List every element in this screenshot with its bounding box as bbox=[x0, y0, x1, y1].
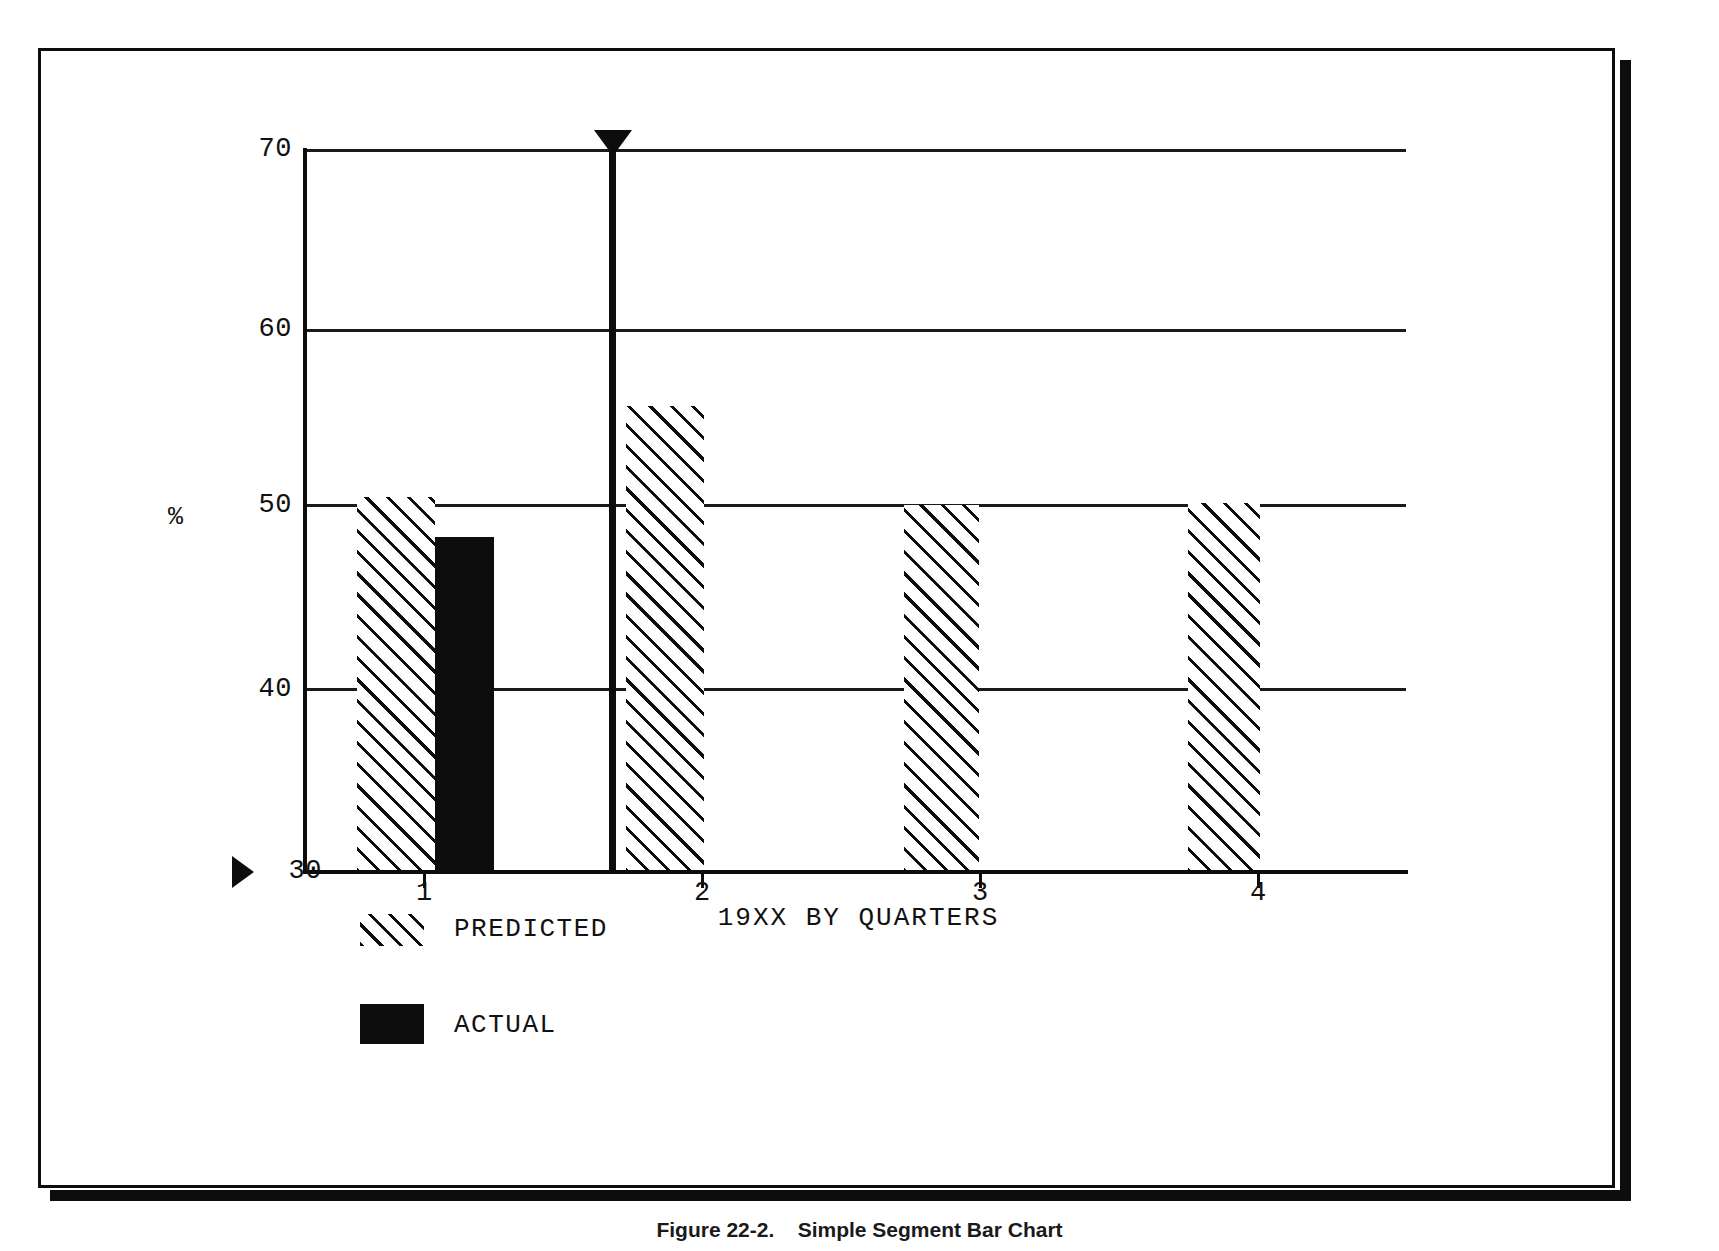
y-tick-label-60: 60 bbox=[222, 316, 292, 343]
bar-predicted-q1 bbox=[357, 497, 435, 872]
right-arrow-icon bbox=[232, 856, 254, 888]
x-axis-title: 19XX BY QUARTERS bbox=[718, 903, 1000, 933]
y-axis-line bbox=[303, 148, 307, 874]
y-tick-label-40: 40 bbox=[222, 676, 292, 703]
current-period-divider bbox=[609, 150, 616, 872]
legend-label-predicted: PREDICTED bbox=[454, 914, 608, 944]
y-axis-title: % bbox=[168, 503, 183, 532]
y-tick-label-30: 30 bbox=[252, 858, 322, 885]
gridline-60 bbox=[305, 329, 1406, 332]
figure-caption-number: Figure 22-2. bbox=[656, 1218, 774, 1241]
figure-caption: Figure 22-2. Simple Segment Bar Chart bbox=[0, 1218, 1719, 1242]
legend-swatch-hatched-icon bbox=[360, 914, 424, 946]
x-axis-title-wrap: 19XX BY QUARTERS bbox=[0, 903, 1719, 933]
figure-caption-text: Simple Segment Bar Chart bbox=[798, 1218, 1063, 1241]
down-arrow-icon bbox=[594, 130, 632, 156]
legend-swatch-solid-icon bbox=[360, 1004, 424, 1044]
gridline-70 bbox=[305, 149, 1406, 152]
bar-chart: 70 60 50 40 30 % 1 2 3 4 19XX BY QUARTER… bbox=[0, 0, 1719, 1251]
legend-label-actual: ACTUAL bbox=[454, 1010, 557, 1040]
x-axis-line bbox=[303, 870, 1408, 874]
bar-predicted-q2 bbox=[626, 406, 704, 872]
bar-predicted-q4 bbox=[1188, 503, 1260, 872]
y-tick-label-50: 50 bbox=[222, 492, 292, 519]
y-tick-label-70: 70 bbox=[222, 136, 292, 163]
bar-actual-q1 bbox=[435, 537, 494, 872]
bar-predicted-q3 bbox=[904, 505, 979, 872]
